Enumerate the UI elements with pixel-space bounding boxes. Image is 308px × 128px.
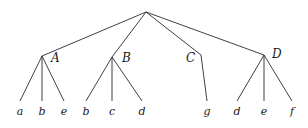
tree-edges (20, 12, 292, 101)
node-label-A: A (50, 51, 60, 65)
tree-diagram: AabeBbcdCgDdef (0, 0, 308, 128)
node-label-C: C (186, 51, 195, 65)
edge-D-to-f (264, 55, 292, 101)
edge-A-to-a (20, 56, 42, 101)
edge-B-to-b (86, 57, 112, 101)
leaf-label-C-g: g (203, 105, 210, 118)
edge-root-to-C (146, 12, 201, 55)
leaf-label-D-e: e (261, 105, 268, 118)
node-label-B: B (121, 51, 131, 65)
tree-labels: AabeBbcdCgDdef (17, 47, 296, 118)
leaf-label-D-d: d (233, 105, 240, 118)
edge-root-to-D (146, 12, 264, 55)
edge-root-to-A (42, 12, 146, 56)
leaf-label-B-c: c (109, 105, 115, 118)
leaf-label-B-b: b (82, 105, 89, 118)
edge-C-to-g (201, 55, 207, 101)
leaf-label-D-f: f (289, 105, 296, 118)
node-label-D: D (271, 47, 282, 61)
leaf-label-A-e: e (61, 105, 68, 118)
leaf-label-A-b: b (38, 105, 45, 118)
leaf-label-A-a: a (17, 105, 24, 118)
leaf-label-B-d: d (138, 105, 145, 118)
edge-D-to-d (237, 55, 264, 101)
